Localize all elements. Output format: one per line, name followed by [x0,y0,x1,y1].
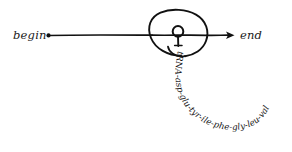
ribosome-group [149,10,207,57]
end-label: end [240,28,262,42]
ribosome-outer-spiral [149,10,207,56]
begin-label: begin [13,28,47,42]
diagram-canvas: tRNA-asp-glu-tyr-ile-phe-gly-leu-val beg… [0,0,292,152]
mrna-strand-left-segment [48,35,152,36]
sketch-surface: tRNA-asp-glu-tyr-ile-phe-gly-leu-val beg… [0,0,292,152]
trna-group [173,26,184,46]
strand-start-dot [46,33,50,37]
peptide-chain-text: tRNA-asp-glu-tyr-ile-phe-gly-leu-val [173,51,271,132]
